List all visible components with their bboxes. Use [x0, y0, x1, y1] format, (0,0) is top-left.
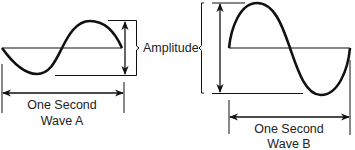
amplitude-bracket-left — [199, 3, 204, 93]
amplitude-bracket-right — [134, 21, 139, 76]
wave-a: One Second Wave A — [2, 21, 136, 129]
wave-a-name-label: Wave A — [41, 114, 84, 128]
wave-diagram: One Second Wave A Amplitude One Second W… — [0, 0, 355, 150]
wave-b: One Second Wave B — [212, 3, 350, 150]
wave-b-curve — [229, 3, 350, 95]
amplitude-label: Amplitude — [143, 41, 199, 55]
wave-b-period-label: One Second — [254, 122, 324, 136]
wave-b-name-label: Wave B — [267, 137, 310, 150]
wave-a-period-label: One Second — [27, 98, 97, 112]
